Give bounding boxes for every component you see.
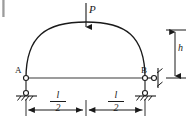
arch-rib — [26, 22, 145, 78]
arch-diagram-svg — [0, 0, 193, 134]
height-label-h: h — [178, 43, 183, 53]
fraction-denominator: 2 — [50, 103, 66, 113]
span-dimension — [26, 99, 145, 116]
support-left-A — [16, 76, 37, 101]
support-label-B: B — [141, 66, 147, 75]
half-span-label-left: l 2 — [50, 90, 66, 113]
fraction-denominator: 2 — [108, 103, 124, 113]
height-dimension — [166, 30, 186, 78]
support-label-A: A — [15, 66, 22, 75]
load-label-P: P — [89, 4, 96, 15]
fraction-numerator: l — [108, 90, 124, 100]
figure-canvas: P h A B l 2 l 2 — [0, 0, 193, 134]
support-right-B — [135, 68, 163, 101]
fraction-numerator: l — [50, 90, 66, 100]
half-span-label-right: l 2 — [108, 90, 124, 113]
